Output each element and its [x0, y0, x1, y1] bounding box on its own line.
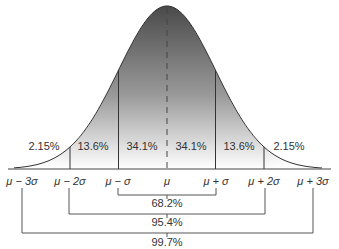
region-label: 34.1% — [126, 140, 157, 152]
region-label: 2.15% — [28, 140, 59, 152]
bracket-labels: 68.2% 95.4% 99.7% — [151, 197, 182, 248]
x-tick-label: μ + 2σ — [247, 175, 280, 187]
x-tick-label: μ + 3σ — [296, 175, 329, 187]
region-label: 34.1% — [175, 140, 206, 152]
bracket-label-99: 99.7% — [151, 236, 182, 248]
bracket-label-68: 68.2% — [151, 197, 182, 209]
x-tick-label: μ − σ — [104, 175, 131, 187]
x-tick-label: μ − 3σ — [5, 175, 38, 187]
region-label: 13.6% — [77, 140, 108, 152]
normal-distribution-chart: 2.15% 13.6% 34.1% 34.1% 13.6% 2.15% μ − … — [0, 0, 339, 249]
bracket-68 — [118, 188, 216, 195]
x-tick-labels: μ − 3σ μ − 2σ μ − σ μ μ + σ μ + 2σ μ + 3… — [5, 175, 329, 187]
x-tick-label: μ − 2σ — [53, 175, 86, 187]
bracket-label-95: 95.4% — [151, 216, 182, 228]
x-tick-label: μ — [163, 175, 170, 187]
region-label: 2.15% — [273, 140, 304, 152]
region-label: 13.6% — [223, 140, 254, 152]
x-tick-label: μ + σ — [202, 175, 229, 187]
brackets — [22, 188, 313, 237]
